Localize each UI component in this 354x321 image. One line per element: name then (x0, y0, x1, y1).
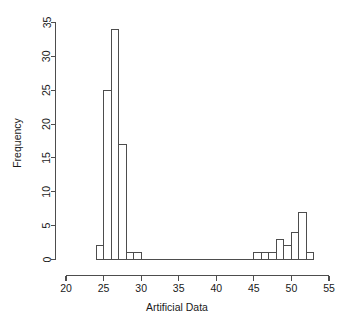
histogram-bar (104, 90, 112, 259)
y-tick-label: 30 (41, 50, 53, 62)
plot-canvas: 05101520253035 2025303540455055 Artifici… (0, 0, 354, 321)
histogram-bar (126, 253, 134, 260)
histogram-bar (284, 246, 292, 260)
y-tick-label: 20 (41, 118, 53, 130)
histogram-bar (119, 144, 127, 259)
histogram-bar (134, 253, 142, 260)
x-tick-label: 50 (286, 282, 298, 294)
y-tick-label: 5 (41, 223, 53, 229)
x-tick-label: 40 (210, 282, 222, 294)
y-axis-title: Frequency (11, 117, 23, 167)
histogram-bar (276, 239, 284, 259)
x-tick-label: 35 (173, 282, 185, 294)
histogram-bar (306, 253, 314, 260)
x-tick-label: 20 (60, 282, 72, 294)
histogram-bar (111, 29, 119, 259)
histogram-bar (254, 253, 262, 260)
y-tick-label: 10 (41, 186, 53, 198)
y-tick-label: 25 (41, 84, 53, 96)
x-axis-title: Artificial Data (146, 301, 208, 313)
histogram-bar (291, 232, 299, 259)
x-axis: 2025303540455055 (60, 276, 335, 294)
x-tick-label: 30 (135, 282, 147, 294)
histogram-bar (261, 253, 269, 260)
histogram-bar (269, 253, 277, 260)
x-tick-label: 55 (323, 282, 335, 294)
y-tick-label: 35 (41, 17, 53, 29)
histogram-bars (96, 29, 314, 259)
x-tick-label: 25 (98, 282, 110, 294)
histogram-bar (299, 212, 307, 259)
y-tick-label: 0 (41, 256, 53, 262)
y-axis: 05101520253035 (41, 17, 56, 263)
y-tick-label: 15 (41, 152, 53, 164)
x-tick-label: 45 (248, 282, 260, 294)
histogram-bar (96, 246, 104, 260)
histogram-plot: 05101520253035 2025303540455055 Artifici… (0, 0, 354, 321)
